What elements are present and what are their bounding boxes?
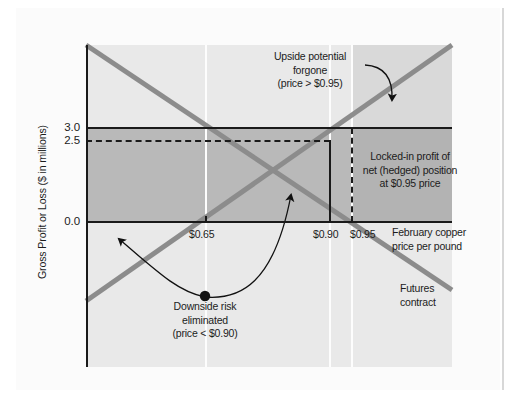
annotation-downside-line1: Downside risk: [150, 300, 260, 314]
x-tick-label-095: $0.95: [350, 228, 375, 240]
annotation-locked-in-profit: Locked-in profit of net (hedged) positio…: [358, 150, 462, 191]
x-tick-label-065: $0.65: [189, 228, 214, 240]
y-tick-label-2-5: 2.5: [46, 134, 80, 146]
annotation-upside-potential-forgone: Upside potential forgone (price > $0.95): [256, 50, 364, 91]
reference-line-price-090: [329, 140, 331, 222]
annotation-locked-line1: Locked-in profit of: [358, 150, 462, 164]
x-tick-label-090: $0.90: [313, 228, 338, 240]
y-tick-label-0-0: 0.0: [46, 215, 80, 227]
y-axis-title: Gross Profit or Loss ($ in millions): [36, 107, 48, 297]
x-tick-090: [329, 216, 331, 223]
reference-line-2-5-dashed: [86, 140, 330, 142]
figure-root: 3.0 2.5 0.0 Gross Profit or Loss ($ in m…: [0, 0, 516, 407]
annotation-downside-risk-eliminated: Downside risk eliminated (price < $0.90): [150, 300, 260, 341]
annotation-upside-line2: forgone: [256, 64, 364, 78]
x-tick-095: [351, 216, 353, 223]
annotation-locked-line2: net (hedged) position: [358, 164, 462, 178]
annotation-futures-contract: Futures contract: [400, 282, 470, 309]
x-axis-title: February copper price per pound: [392, 226, 492, 253]
annotation-futures-line1: Futures: [400, 282, 470, 296]
x-tick-065: [205, 216, 207, 223]
y-axis-line: [86, 45, 88, 367]
annotation-upside-line3: (price > $0.95): [256, 77, 364, 91]
annotation-futures-line2: contract: [400, 296, 470, 310]
annotation-downside-line2: eliminated: [150, 314, 260, 328]
reference-line-price-095-dashed: [351, 128, 353, 222]
annotation-upside-line1: Upside potential: [256, 50, 364, 64]
annotation-locked-line3: at $0.95 price: [358, 177, 462, 191]
x-axis-title-line2: price per pound: [392, 240, 492, 254]
x-axis-zero-line: [86, 221, 452, 223]
y-tick-label-3-0: 3.0: [46, 121, 80, 133]
reference-line-3-0: [86, 127, 452, 129]
annotation-downside-line3: (price < $0.90): [150, 327, 260, 341]
x-axis-title-line1: February copper: [392, 226, 492, 240]
